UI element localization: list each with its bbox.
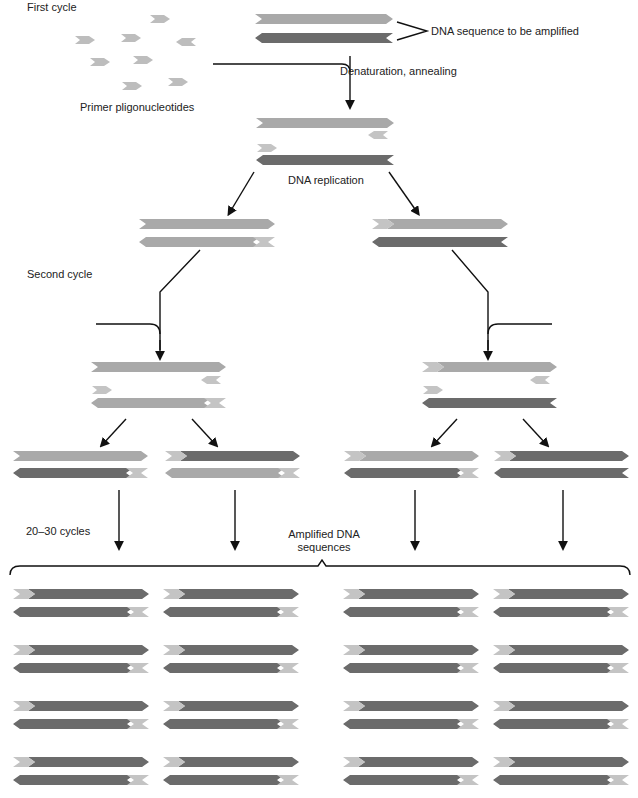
forward-strand-body: [28, 645, 149, 655]
primer-icon: [90, 58, 110, 66]
forward-strand-body: [358, 645, 479, 655]
reverse-strand-body: [163, 607, 284, 617]
second-cycle-line-left: [160, 250, 200, 350]
primer-segment: [126, 468, 148, 478]
primer-segment: [277, 663, 299, 673]
forward-strand: [139, 219, 275, 229]
annealed-strand-top: [256, 118, 394, 128]
primer-segment: [127, 719, 149, 729]
annealed-strand-bottom: [256, 155, 394, 165]
primer-icon: [122, 82, 142, 90]
reverse-strand: [422, 398, 557, 408]
primer-segment: [127, 663, 149, 673]
forward-strand-body: [178, 645, 299, 655]
forward-strand-body: [359, 451, 479, 461]
reverse-strand-body: [13, 663, 134, 673]
forward-strand-body: [358, 589, 479, 599]
reverse-strand-body: [165, 468, 285, 478]
arrow-replication-right: [389, 172, 417, 212]
primer-feed-line-left: [96, 324, 160, 334]
forward-strand: [13, 451, 148, 461]
denaturation-label: Denaturation, annealing: [340, 65, 457, 78]
primer-icon: [257, 144, 277, 152]
reverse-strand-body: [343, 607, 464, 617]
primer-segment: [607, 663, 629, 673]
amplified-label-line2: sequences: [288, 541, 360, 554]
primer-icon: [75, 36, 95, 44]
primer-icon: [368, 131, 388, 139]
forward-strand-body: [180, 451, 300, 461]
first-cycle-label: First cycle: [27, 1, 77, 14]
primer-icon: [423, 386, 443, 394]
reverse-strand-body: [13, 607, 134, 617]
second-cycle-line-right: [452, 250, 488, 350]
forward-strand-body: [178, 589, 299, 599]
dna-target-label: DNA sequence to be amplified: [431, 25, 579, 38]
primer-icon: [133, 56, 153, 64]
cycles-label: 20–30 cycles: [26, 525, 90, 538]
primer-segment: [277, 719, 299, 729]
forward-strand-body: [387, 219, 508, 229]
forward-strand: [91, 362, 226, 372]
template-strand-top: [255, 14, 393, 24]
primer-segment: [457, 775, 479, 785]
primer-segment: [278, 468, 300, 478]
reverse-strand-body: [163, 663, 284, 673]
reverse-strand: [372, 237, 508, 247]
primer-segment: [457, 468, 479, 478]
primer-icon: [176, 38, 196, 46]
primer-segment: [457, 607, 479, 617]
forward-strand-body: [508, 645, 629, 655]
forward-strand-body: [508, 701, 629, 711]
pcr-diagram: [0, 0, 638, 798]
forward-strand-body: [508, 757, 629, 767]
reverse-strand-body: [344, 468, 464, 478]
forward-strand-body: [178, 757, 299, 767]
primer-segment: [607, 607, 629, 617]
reverse-strand-body: [343, 663, 464, 673]
template-strand-bottom: [255, 33, 393, 43]
primer-segment: [277, 775, 299, 785]
replication-label: DNA replication: [288, 174, 364, 187]
primer-segment: [204, 398, 226, 408]
primer-segment: [457, 663, 479, 673]
amplified-brace: [10, 560, 630, 575]
forward-strand-body: [28, 589, 149, 599]
reverse-strand-body: [493, 663, 614, 673]
second-cycle-label: Second cycle: [27, 268, 92, 281]
forward-strand-body: [437, 362, 557, 372]
amplified-label-line1: Amplified DNA: [288, 528, 360, 541]
amplified-label: Amplified DNA sequences: [288, 528, 360, 554]
reverse-strand: [494, 468, 629, 478]
forward-strand-body: [508, 589, 629, 599]
forward-strand-body: [178, 701, 299, 711]
primer-icon: [168, 78, 188, 86]
primer-segment: [253, 237, 275, 247]
forward-strand-body: [358, 701, 479, 711]
reverse-strand-body: [13, 775, 134, 785]
primer-segment: [277, 607, 299, 617]
primer-segment: [127, 607, 149, 617]
primer-icon: [530, 376, 550, 384]
forward-strand-body: [28, 701, 149, 711]
forward-strand-body: [358, 757, 479, 767]
primer-segment: [607, 775, 629, 785]
reverse-strand-body: [91, 398, 211, 408]
reverse-strand-body: [13, 719, 134, 729]
primer-segment: [127, 775, 149, 785]
reverse-strand-body: [493, 719, 614, 729]
bracket-dna-target: [397, 22, 427, 40]
primer-segment: [457, 719, 479, 729]
arrow-split-2: [192, 419, 215, 444]
arrow-split-4: [523, 419, 546, 444]
forward-strand-body: [28, 757, 149, 767]
reverse-strand-body: [343, 775, 464, 785]
reverse-strand-body: [13, 468, 133, 478]
arrow-split-3: [434, 419, 457, 444]
reverse-strand-body: [163, 775, 284, 785]
primers-label: Primer pligonucleotides: [80, 101, 194, 114]
reverse-strand-body: [493, 607, 614, 617]
primer-feed-line-1: [213, 64, 350, 72]
reverse-strand-body: [343, 719, 464, 729]
primer-icon: [121, 34, 141, 42]
